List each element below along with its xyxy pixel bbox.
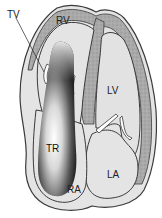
label-lv: LV — [107, 85, 119, 96]
label-rv: RV — [56, 15, 70, 26]
label-ra: RA — [67, 184, 81, 195]
label-la: LA — [107, 169, 120, 180]
heart-diagram: TV RV LV TR RA LA — [0, 0, 162, 218]
label-tr: TR — [46, 143, 59, 154]
label-tv: TV — [7, 9, 20, 20]
